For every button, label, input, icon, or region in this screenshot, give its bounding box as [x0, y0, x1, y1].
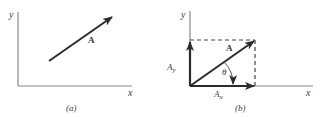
x-axis-label: x: [305, 87, 311, 98]
caption-a: (a): [66, 103, 77, 113]
y-axis-label: y: [8, 9, 14, 20]
angle-theta-label: θ: [222, 67, 227, 77]
figure-b: y x A θ Ay Ax (b): [166, 9, 313, 113]
vector-a-arrow: [190, 41, 254, 86]
y-axis-label: y: [180, 9, 186, 20]
vector-a-arrow: [49, 17, 112, 61]
vector-a-label: A: [88, 35, 95, 45]
caption-b: (b): [235, 103, 246, 113]
x-axis-label: x: [127, 87, 133, 98]
y-component-label: Ay: [166, 62, 177, 74]
figure-a: y x A (a): [8, 9, 133, 113]
vector-a-label: A: [226, 43, 233, 53]
x-component-label: Ax: [213, 89, 224, 101]
vector-diagram: y x A (a) y x A θ Ay Ax (b): [0, 0, 326, 117]
